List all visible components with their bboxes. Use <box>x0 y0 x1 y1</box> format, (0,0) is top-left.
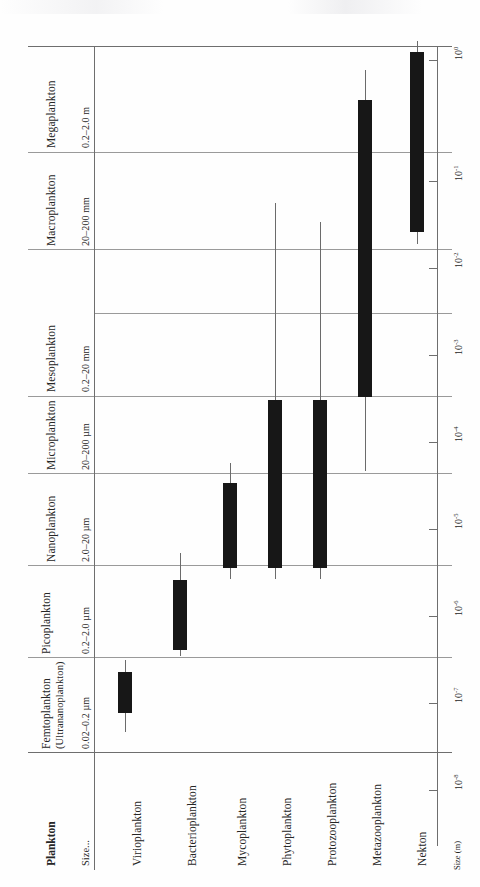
category-label-mycoplankton: Mycoplankton <box>236 798 248 866</box>
band-rule-top <box>28 46 452 47</box>
class-subname-ultrananoplankton: (Ultrananoplankton) <box>54 661 65 749</box>
axis-title: Size (m) <box>452 841 462 870</box>
band-rule-3 <box>28 396 452 397</box>
axis-tick-7 <box>429 703 438 704</box>
class-name-femtoplankton: Femtoplankton <box>40 678 52 749</box>
axis-tick-label-7: 10-7 <box>452 688 464 704</box>
axis-tick-label-4: 10-4 <box>452 427 464 443</box>
axis-tick-1 <box>429 181 438 182</box>
axis-tick-0 <box>429 60 438 61</box>
axis-tick-label-3: 10-3 <box>452 340 464 356</box>
axis-tick-3 <box>429 355 438 356</box>
axis-tick-label-6: 10-6 <box>452 601 464 617</box>
box-bacterioplankton <box>173 580 187 650</box>
box-mycoplankton <box>223 483 237 568</box>
figure-page: 100 10-1 10-2 10-3 10-4 10-5 10-6 10-7 1… <box>0 0 480 887</box>
corner-subheader: Size... <box>80 840 91 866</box>
band-rule-2 <box>28 249 452 250</box>
table-divider-vertical <box>94 46 95 752</box>
class-range-mesoplankton: 0.2–20 mm <box>80 346 91 392</box>
axis-tick-6 <box>429 616 438 617</box>
scan-artifact <box>0 0 480 14</box>
class-range-nanoplankton: 2.0–20 µm <box>80 518 91 562</box>
axis-tick-label-0: 100 <box>452 47 464 60</box>
class-name-picoplankton: Picoplankton <box>40 592 52 654</box>
box-metazooplankton <box>358 100 372 397</box>
class-name-microplankton: Microplankton <box>45 400 57 470</box>
axis-tick-label-8: 10-8 <box>452 775 464 791</box>
category-label-virioplankton: Virioplankton <box>131 801 143 866</box>
box-virioplankton <box>118 672 132 713</box>
band-rule-bottom <box>28 752 452 753</box>
axis-tick-2 <box>429 268 438 269</box>
page-title: Plankton <box>45 821 57 866</box>
band-rule-1 <box>28 152 452 153</box>
class-name-nanoplankton: Nanoplankton <box>45 496 57 562</box>
axis-spine <box>437 46 438 846</box>
band-rule-4 <box>28 473 452 474</box>
axis-tick-4 <box>429 442 438 443</box>
axis-tick-8 <box>429 790 438 791</box>
category-label-metazooplankton: Metazooplankton <box>371 784 383 866</box>
class-range-megaplankton: 0.2–2.0 m <box>80 107 91 148</box>
band-rule-5 <box>28 565 452 566</box>
class-name-macroplankton: Macroplankton <box>45 174 57 246</box>
class-range-microplankton: 20–200 µm <box>80 423 91 470</box>
class-range-picoplankton: 0.2–2.0 µm <box>80 607 91 654</box>
category-label-nekton: Nekton <box>416 832 428 866</box>
table-divider-vertical-lower <box>94 752 95 870</box>
axis-tick-label-1: 10-1 <box>452 166 464 182</box>
axis-tick-label-2: 10-2 <box>452 253 464 269</box>
axis-tick-label-5: 10-5 <box>452 514 464 530</box>
category-label-protozooplankton: Protozooplankton <box>326 783 338 866</box>
band-rule-6 <box>28 657 452 658</box>
axis-tick-5 <box>429 529 438 530</box>
box-nekton <box>410 52 424 232</box>
box-phytoplankton <box>268 400 282 568</box>
class-name-megaplankton: Megaplankton <box>45 80 57 148</box>
category-label-bacterioplankton: Bacterioplankton <box>186 785 198 866</box>
class-name-mesoplankton: Mesoplankton <box>45 325 57 392</box>
box-protozooplankton <box>313 400 327 568</box>
category-label-phytoplankton: Phytoplankton <box>281 798 293 866</box>
class-range-femtoplankton: 0.02–0.2 µm <box>80 697 91 749</box>
band-rule-2b <box>94 313 452 314</box>
class-range-macroplankton: 20–200 mm <box>80 197 91 246</box>
